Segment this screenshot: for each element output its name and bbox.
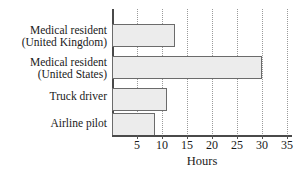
- category-label-medical-resident-us: Medical resident (United States): [30, 57, 107, 80]
- x-axis-title: Hours: [112, 154, 292, 169]
- bar-chart: Medical resident (United Kingdom) Medica…: [0, 0, 305, 175]
- category-label-airline-pilot: Airline pilot: [50, 118, 107, 130]
- category-label-line-1: Medical resident: [30, 24, 107, 36]
- x-tick-label: 15: [181, 138, 193, 152]
- gridline: [262, 9, 263, 136]
- x-tick-label: 20: [206, 138, 218, 152]
- x-tick-label: 5: [134, 138, 140, 152]
- x-tick-label: 35: [281, 138, 293, 152]
- category-label-medical-resident-uk: Medical resident (United Kingdom): [22, 25, 107, 48]
- x-tick-label: 10: [156, 138, 168, 152]
- bar-medical-resident-uk: [112, 24, 175, 47]
- category-label-truck-driver: Truck driver: [50, 91, 107, 103]
- category-label-line-2: (United Kingdom): [22, 37, 107, 49]
- bar-medical-resident-us: [112, 56, 262, 79]
- bar-airline-pilot: [112, 113, 155, 136]
- category-label-line-1: Airline pilot: [50, 117, 107, 129]
- bar-truck-driver: [112, 88, 167, 111]
- gridline: [287, 9, 288, 136]
- plot-area: [112, 9, 292, 136]
- category-label-line-1: Truck driver: [50, 90, 107, 102]
- x-tick-label: 30: [256, 138, 268, 152]
- category-label-line-1: Medical resident: [30, 56, 107, 68]
- category-label-line-2: (United States): [30, 69, 107, 81]
- x-axis-tick-labels: 5101520253035: [112, 138, 292, 154]
- x-tick-label: 25: [231, 138, 243, 152]
- x-axis-line: [112, 135, 292, 137]
- category-axis-labels: Medical resident (United Kingdom) Medica…: [0, 0, 110, 135]
